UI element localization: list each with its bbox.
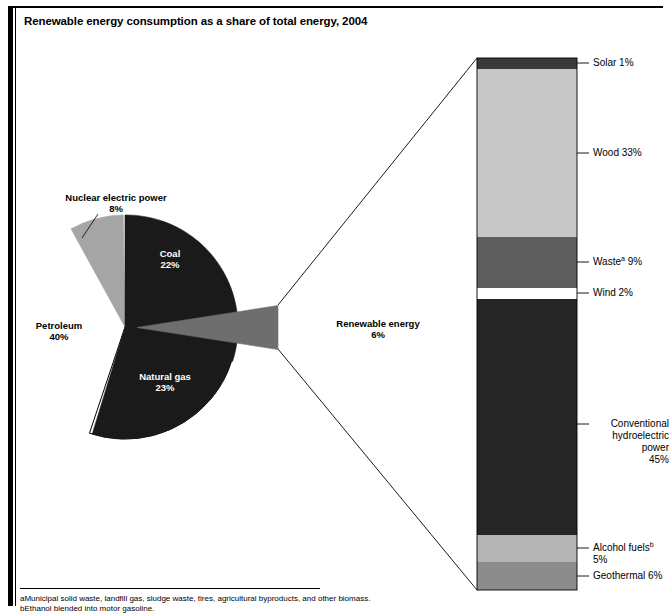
- bar-segment-solar[interactable]: [477, 58, 577, 69]
- bar-label-alcohol-name: Alcohol fuels: [593, 542, 650, 553]
- bar-label-hydro-line2: hydroelectric: [612, 430, 669, 441]
- bar-label-waste-name: Waste: [593, 256, 621, 267]
- bar-segment-wood[interactable]: [477, 69, 577, 237]
- pie-label-natural-gas: Natural gas 23%: [110, 371, 220, 393]
- footnote-rule: [20, 588, 320, 589]
- pie-label-coal-value: 22%: [160, 259, 179, 270]
- pie-label-renewable-value: 6%: [371, 329, 385, 340]
- pie-label-renewable-name: Renewable energy: [336, 318, 419, 329]
- bar-label-alcohol-footnote-marker: b: [650, 541, 654, 548]
- bar-segment-hydro[interactable]: [477, 299, 577, 535]
- pie-label-nuclear: Nuclear electric power 8%: [36, 192, 196, 214]
- pie-label-renewable: Renewable energy 6%: [318, 318, 438, 340]
- bar-label-hydro-line1: Conventional: [611, 418, 669, 429]
- bar-label-hydro-line3: power: [642, 442, 669, 453]
- footnote-b: bEthanol blended into motor gasoline.: [20, 604, 640, 614]
- bar-label-hydro-line4: 45%: [649, 454, 669, 465]
- footnote-a: aMunicipal solid waste, landfill gas, sl…: [20, 594, 640, 604]
- pie-label-nuclear-value: 8%: [109, 203, 123, 214]
- connector-top: [278, 58, 477, 305]
- bar-label-wood: Wood 33%: [593, 147, 642, 159]
- bar-segment-wind[interactable]: [477, 288, 577, 299]
- breakout-bar: [477, 58, 577, 590]
- bar-label-alcohol: Alcohol fuelsb 5%: [593, 542, 663, 566]
- bar-segment-waste[interactable]: [477, 237, 577, 288]
- pie-label-nuclear-name: Nuclear electric power: [65, 192, 166, 203]
- bar-label-waste: Wastea 9%: [593, 256, 642, 268]
- bar-leader-lines: [577, 63, 589, 576]
- connector-bottom: [278, 349, 477, 590]
- bar-label-wind: Wind 2%: [593, 287, 633, 299]
- pie-label-natural-gas-name: Natural gas: [139, 371, 191, 382]
- pie-label-petroleum: Petroleum 40%: [14, 320, 104, 342]
- bar-segment-alcohol[interactable]: [477, 535, 577, 562]
- pie-label-coal-name: Coal: [160, 248, 181, 259]
- pie-label-petroleum-value: 40%: [49, 331, 68, 342]
- pie-label-natural-gas-value: 23%: [155, 382, 174, 393]
- bar-label-solar: Solar 1%: [593, 57, 634, 69]
- bar-label-geothermal: Geothermal 6%: [593, 570, 662, 582]
- bar-segment-geothermal[interactable]: [477, 562, 577, 590]
- bar-label-hydro: Conventional hydroelectric power 45%: [589, 418, 669, 466]
- bar-label-alcohol-value: 5%: [593, 554, 607, 565]
- pie-label-coal: Coal 22%: [130, 248, 210, 270]
- bar-label-waste-value: 9%: [625, 256, 642, 267]
- pie-label-petroleum-name: Petroleum: [36, 320, 82, 331]
